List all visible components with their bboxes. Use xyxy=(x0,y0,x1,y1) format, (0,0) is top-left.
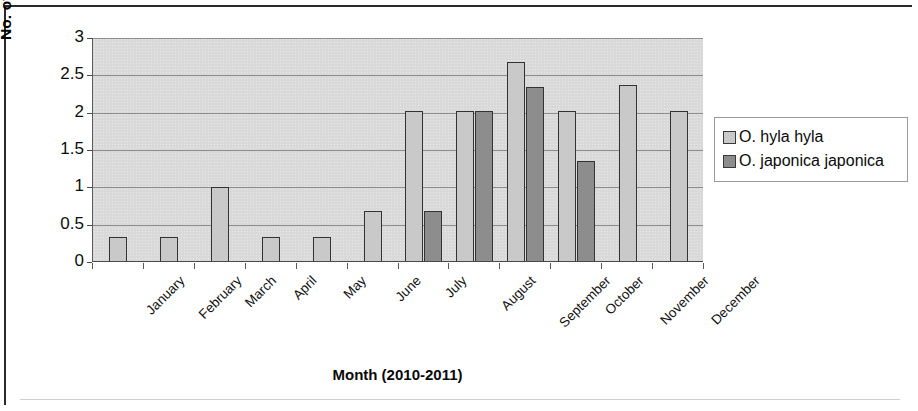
x-tick-label-may: May xyxy=(341,273,370,302)
legend-item-0[interactable]: O. hyla hyla xyxy=(723,125,901,149)
y-axis-title: No. of individual/15m2 xyxy=(0,0,15,40)
bar-october-series-0 xyxy=(558,111,576,262)
plot-area xyxy=(92,38,703,262)
bar-january-series-0 xyxy=(109,237,127,262)
x-tick-mark-7 xyxy=(448,263,449,269)
x-tick-label-september: September xyxy=(556,273,613,330)
bar-august-series-0 xyxy=(456,111,474,262)
x-tick-mark-12 xyxy=(703,263,704,269)
x-tick-mark-6 xyxy=(398,263,399,269)
legend-item-1[interactable]: O. japonica japonica xyxy=(723,149,901,173)
x-tick-mark-11 xyxy=(652,263,653,269)
legend-swatch-icon-series-1 xyxy=(723,155,736,168)
x-tick-label-january: January xyxy=(144,273,189,318)
x-tick-mark-4 xyxy=(296,263,297,269)
y-tick-label-1.5: 1.5 xyxy=(40,139,84,159)
x-axis-baseline xyxy=(93,261,703,262)
bar-december-series-0 xyxy=(670,111,688,262)
legend-swatch-icon-series-0 xyxy=(723,131,736,144)
figure-container: No. of individual/15m2 00.511.522.53 Jan… xyxy=(0,0,918,411)
y-tick-label-0.5: 0.5 xyxy=(40,214,84,234)
bar-november-series-0 xyxy=(619,85,637,262)
y-tick-label-2: 2 xyxy=(40,102,84,122)
bar-june-series-0 xyxy=(364,211,382,262)
bar-july-series-1 xyxy=(424,211,442,262)
x-tick-mark-5 xyxy=(347,263,348,269)
legend-label-series-0: O. hyla hyla xyxy=(739,128,823,146)
y-tick-label-0: 0 xyxy=(40,251,84,271)
legend-label-series-1: O. japonica japonica xyxy=(739,152,884,170)
x-tick-label-february: February xyxy=(196,273,245,322)
x-tick-mark-2 xyxy=(194,263,195,269)
y-tick-label-1: 1 xyxy=(40,176,84,196)
x-tick-label-march: March xyxy=(242,273,279,310)
bar-february-series-0 xyxy=(160,237,178,262)
bar-april-series-0 xyxy=(262,237,280,262)
x-tick-mark-9 xyxy=(550,263,551,269)
x-tick-mark-10 xyxy=(601,263,602,269)
bar-march-series-0 xyxy=(211,187,229,262)
bar-september-series-1 xyxy=(526,87,544,262)
x-tick-label-december: December xyxy=(708,273,763,328)
y-tick-label-3: 3 xyxy=(40,27,84,47)
x-tick-mark-3 xyxy=(245,263,246,269)
x-tick-label-june: June xyxy=(393,273,424,304)
x-tick-mark-0 xyxy=(92,263,93,269)
x-tick-label-april: April xyxy=(290,273,320,303)
chart-legend: O. hyla hyla O. japonica japonica xyxy=(714,117,908,182)
bar-october-series-1 xyxy=(577,161,595,262)
x-tick-label-august: August xyxy=(498,273,538,313)
x-axis-title: Month (2010-2011) xyxy=(92,366,703,383)
y-axis-title-text: No. of individual/15m xyxy=(0,0,14,40)
bar-may-series-0 xyxy=(313,237,331,262)
y-tick-label-2.5: 2.5 xyxy=(40,64,84,84)
x-tick-mark-8 xyxy=(499,263,500,269)
x-tick-label-july: July xyxy=(442,273,470,301)
bars-layer xyxy=(93,38,703,262)
x-tick-mark-1 xyxy=(143,263,144,269)
x-tick-label-november: November xyxy=(657,273,712,328)
bar-july-series-0 xyxy=(405,111,423,262)
bar-september-series-0 xyxy=(507,62,525,262)
bar-august-series-1 xyxy=(475,111,493,262)
page-border-bottom xyxy=(20,399,900,400)
